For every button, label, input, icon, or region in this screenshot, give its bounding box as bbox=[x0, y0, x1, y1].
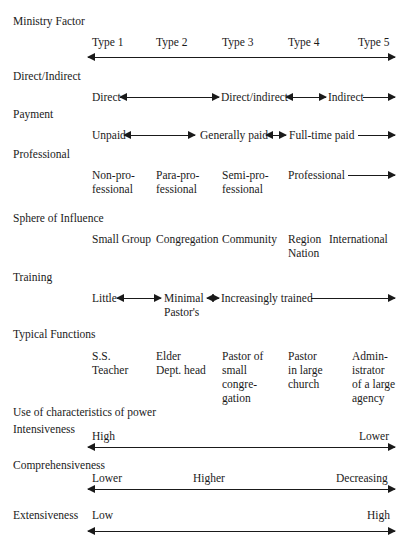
elder-dept-head-value: Elder Dept. head bbox=[156, 349, 206, 377]
direct-indirect-label: Direct/Indirect bbox=[13, 69, 81, 83]
extensiveness-label: Extensiveness bbox=[13, 508, 78, 522]
professional-label: Professional bbox=[13, 147, 70, 161]
direct-arrow bbox=[120, 97, 219, 98]
typical-functions-label: Typical Functions bbox=[13, 327, 96, 341]
type-2-label: Type 2 bbox=[156, 35, 187, 49]
international-value: International bbox=[329, 232, 388, 246]
type-scale-arrow bbox=[88, 57, 395, 58]
type-1-label: Type 1 bbox=[92, 35, 123, 49]
comprehensiveness-arrow bbox=[88, 489, 395, 490]
minimal-pastors-value: Minimal Pastor's bbox=[164, 291, 204, 319]
direct-indirect-value: Direct/indirect bbox=[221, 90, 288, 104]
type-4-label: Type 4 bbox=[288, 35, 319, 49]
intensiveness-lower: Lower bbox=[359, 429, 389, 443]
type-3-label: Type 3 bbox=[222, 35, 253, 49]
unpaid-arrow bbox=[124, 135, 195, 136]
administrator-value: Admin- istrator of a large agency bbox=[352, 349, 395, 405]
sphere-of-influence-label: Sphere of Influence bbox=[13, 211, 104, 225]
professional-value: Professional bbox=[288, 168, 345, 182]
minimal-arrow bbox=[207, 298, 219, 299]
extensiveness-arrow bbox=[88, 531, 395, 532]
direct-value: Direct bbox=[92, 90, 121, 104]
community-value: Community bbox=[222, 232, 277, 246]
pastor-small-congregation-value: Pastor of small congre- gation bbox=[222, 349, 263, 405]
professional-arrow bbox=[348, 175, 395, 176]
unpaid-value: Unpaid bbox=[92, 128, 126, 142]
trained-arrow bbox=[311, 298, 395, 299]
intensiveness-high: High bbox=[92, 429, 115, 443]
full-time-paid-arrow bbox=[358, 135, 395, 136]
direct-indirect-arrow bbox=[286, 97, 326, 98]
para-professional-value: Para-pro- fessional bbox=[156, 168, 199, 196]
increasingly-trained-value: Increasingly trained bbox=[221, 291, 313, 305]
comprehensiveness-label: Comprehensiveness bbox=[13, 458, 105, 472]
type-5-label: Type 5 bbox=[358, 35, 389, 49]
indirect-value: Indirect bbox=[328, 90, 364, 104]
generally-paid-value: Generally paid bbox=[200, 128, 268, 142]
comprehensiveness-higher: Higher bbox=[193, 471, 225, 485]
full-time-paid-value: Full-time paid bbox=[289, 128, 354, 142]
non-professional-value: Non-pro- fessional bbox=[92, 168, 135, 196]
pastor-large-church-value: Pastor in large church bbox=[288, 349, 323, 391]
comprehensiveness-decreasing: Decreasing bbox=[336, 471, 388, 485]
semi-professional-value: Semi-pro- fessional bbox=[222, 168, 269, 196]
payment-label: Payment bbox=[13, 107, 53, 121]
ministry-factor-label: Ministry Factor bbox=[13, 14, 85, 28]
small-group-value: Small Group bbox=[92, 232, 151, 246]
extensiveness-high: High bbox=[367, 508, 390, 522]
indirect-arrow bbox=[363, 97, 395, 98]
extensiveness-low: Low bbox=[92, 508, 113, 522]
power-characteristics-label: Use of characteristics of power bbox=[13, 405, 156, 419]
intensiveness-label: Intensiveness bbox=[13, 422, 75, 436]
training-label: Training bbox=[13, 270, 52, 284]
region-nation-value: Region Nation bbox=[288, 232, 321, 260]
congregation-value: Congregation bbox=[156, 232, 219, 246]
ss-teacher-value: S.S. Teacher bbox=[92, 349, 128, 377]
generally-paid-arrow bbox=[266, 135, 286, 136]
intensiveness-arrow bbox=[88, 447, 395, 448]
little-value: Little bbox=[92, 291, 117, 305]
little-arrow bbox=[117, 298, 161, 299]
comprehensiveness-lower: Lower bbox=[92, 471, 122, 485]
